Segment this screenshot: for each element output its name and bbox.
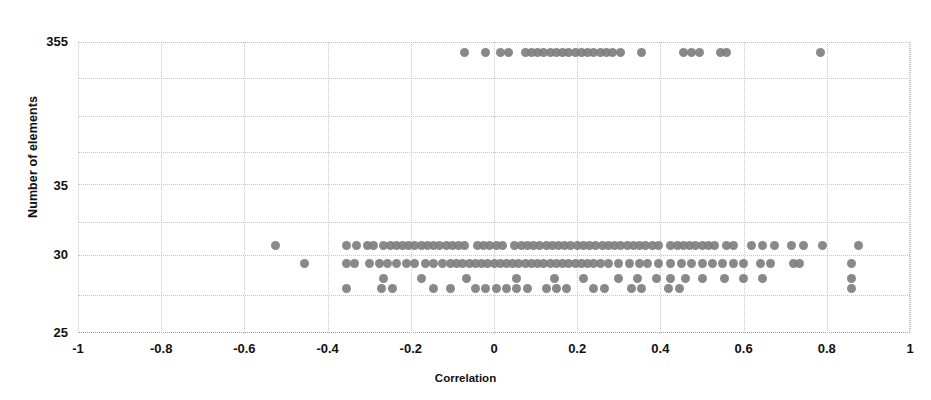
data-point (417, 274, 426, 283)
gridline-vertical (744, 42, 745, 333)
data-point (637, 48, 646, 57)
data-point (666, 259, 675, 268)
data-point (462, 274, 471, 283)
gridline-vertical (827, 42, 828, 333)
data-point (675, 284, 684, 293)
data-point (616, 48, 625, 57)
data-point (729, 259, 738, 268)
data-point (747, 241, 756, 250)
y-tick-label: 355 (8, 34, 68, 49)
gridline-vertical (577, 42, 578, 333)
data-point (481, 284, 490, 293)
data-point (512, 274, 521, 283)
data-point (429, 284, 438, 293)
data-point (369, 241, 378, 250)
data-point (698, 259, 707, 268)
data-point (758, 241, 767, 250)
x-tick-label: 0.8 (797, 341, 857, 356)
data-point (854, 241, 863, 250)
data-point (666, 274, 675, 283)
data-point (770, 241, 779, 250)
data-point (379, 274, 388, 283)
data-point (718, 259, 727, 268)
gridline-vertical (411, 42, 412, 333)
data-point (542, 284, 551, 293)
data-point (739, 259, 748, 268)
data-point (481, 48, 490, 57)
data-point (271, 241, 280, 250)
data-point (847, 284, 856, 293)
data-point (722, 48, 731, 57)
data-point (795, 259, 804, 268)
data-point (654, 259, 663, 268)
data-point (664, 284, 673, 293)
data-point (460, 241, 469, 250)
data-point (492, 284, 501, 293)
data-point (350, 259, 359, 268)
data-point (708, 259, 717, 268)
x-tick-label: -0.6 (214, 341, 274, 356)
data-point (446, 284, 455, 293)
data-point (365, 259, 374, 268)
data-point (502, 284, 511, 293)
data-point (710, 241, 719, 250)
data-point (552, 284, 561, 293)
data-point (342, 241, 351, 250)
data-point (410, 259, 419, 268)
data-point (799, 241, 808, 250)
data-point (614, 274, 623, 283)
x-tick-label: 0 (464, 341, 524, 356)
data-point (498, 241, 507, 250)
data-point (512, 284, 521, 293)
data-point (627, 284, 636, 293)
x-tick-label: -0.4 (298, 341, 358, 356)
data-point (652, 274, 661, 283)
data-point (847, 259, 856, 268)
y-tick-label: 25 (8, 325, 68, 340)
data-point (625, 259, 634, 268)
data-point (523, 284, 532, 293)
data-point (739, 274, 748, 283)
data-point (847, 274, 856, 283)
x-tick-label: 0.4 (630, 341, 690, 356)
data-point (589, 284, 598, 293)
data-point (460, 48, 469, 57)
data-point (720, 274, 729, 283)
x-tick-label: 1 (880, 341, 931, 356)
data-point (429, 259, 438, 268)
data-point (637, 284, 646, 293)
x-tick-label: -1 (48, 341, 108, 356)
data-point (504, 48, 513, 57)
data-point (377, 284, 386, 293)
y-tick-label: 35 (8, 178, 68, 193)
data-point (818, 241, 827, 250)
x-tick-label: 0.2 (547, 341, 607, 356)
data-point (654, 241, 663, 250)
data-point (758, 274, 767, 283)
data-point (471, 284, 480, 293)
gridline-vertical (78, 42, 79, 333)
data-point (681, 274, 690, 283)
data-point (562, 284, 571, 293)
data-point (677, 259, 686, 268)
data-point (579, 274, 588, 283)
scatter-plot-figure: Number of elements Correlation 355 35 30… (0, 0, 931, 400)
data-point (600, 284, 609, 293)
gridline-vertical (910, 42, 911, 333)
data-point (643, 259, 652, 268)
gridline-vertical (161, 42, 162, 333)
data-point (614, 259, 623, 268)
data-point (342, 284, 351, 293)
x-tick-label: -0.8 (131, 341, 191, 356)
data-point (695, 48, 704, 57)
x-tick-label: 0.6 (714, 341, 774, 356)
data-point (729, 241, 738, 250)
data-point (300, 259, 309, 268)
y-tick-label: 30 (8, 247, 68, 262)
plot-area (78, 42, 910, 333)
data-point (756, 259, 765, 268)
gridline-vertical (328, 42, 329, 333)
x-tick-label: -0.2 (381, 341, 441, 356)
gridline-vertical (660, 42, 661, 333)
data-point (816, 48, 825, 57)
